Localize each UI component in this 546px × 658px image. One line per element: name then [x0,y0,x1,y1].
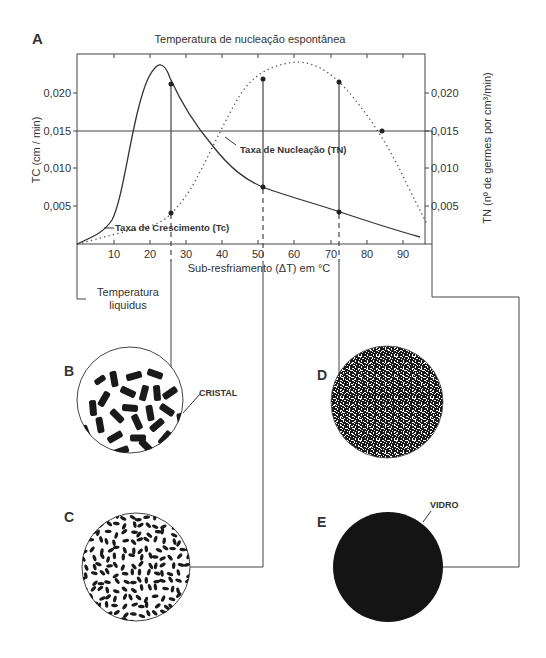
cristal-leader [183,394,200,413]
svg-text:0,015: 0,015 [43,125,71,137]
nucleation-label-leader [225,137,236,145]
svg-text:20: 20 [144,248,156,260]
x-tick-labels: 10 20 30 40 50 60 70 80 90 [108,248,409,260]
svg-text:90: 90 [397,248,409,260]
x-axis-label: Sub-resfriamento (ΔT) em °C [188,262,331,274]
top-ticks [114,54,403,58]
svg-text:40: 40 [216,248,228,260]
svg-text:0,010: 0,010 [431,162,459,174]
svg-text:0,020: 0,020 [431,87,459,99]
liquidus-label-line1: Temperatura [97,286,160,298]
panel-b-letter: B [64,363,74,379]
liquidus-label-line2: liquidus [109,299,147,311]
svg-text:0,005: 0,005 [431,200,459,212]
svg-text:0,010: 0,010 [43,162,71,174]
right-y-tick-labels: 0,020 0,015 0,010 0,005 [431,87,459,212]
panel-e-letter: E [317,514,326,530]
panel-d-letter: D [317,367,327,383]
vidro-label: VIDRO [430,500,459,510]
nucleation-curve-label: Taxa de Nucleação (TN) [240,144,346,155]
right-axis-label: TN (nº de germes por cm³/min) [481,72,493,223]
panel-connectors [171,131,519,567]
liquidus-bracket [77,244,86,299]
svg-text:50: 50 [252,248,264,260]
svg-text:10: 10 [108,248,120,260]
svg-text:70: 70 [325,248,337,260]
crystallization-diagram: A Temperatura de nucleação espontânea 0,… [0,0,546,658]
growth-curve-label: Taxa de Crescimento (Tc) [115,222,229,233]
vidro-leader [423,511,431,522]
svg-text:0,005: 0,005 [43,200,71,212]
cristal-label: CRISTAL [199,388,238,398]
left-axis-label: TC (cm / min) [30,117,42,184]
panel-a-letter: A [32,30,43,47]
panel-c-letter: C [64,509,74,525]
svg-text:60: 60 [288,248,300,260]
svg-text:80: 80 [361,248,373,260]
left-y-tick-labels: 0,020 0,015 0,010 0,005 [43,87,71,212]
bottom-ticks [114,240,403,244]
svg-text:30: 30 [180,248,192,260]
chart-title: Temperatura de nucleação espontânea [155,33,347,45]
svg-text:0,015: 0,015 [431,125,459,137]
glass-circle [333,512,443,622]
svg-text:0,020: 0,020 [43,87,71,99]
